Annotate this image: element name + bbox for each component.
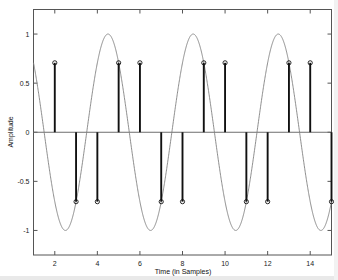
x-axis-tick-labels: 2468101214	[53, 260, 314, 267]
y-axis-tick-labels: 10.50-0.5-1	[17, 31, 29, 234]
x-tick-label: 2	[53, 260, 57, 267]
x-tick-label: 8	[181, 260, 185, 267]
x-tick-label: 10	[221, 260, 229, 267]
y-tick-label: 0	[26, 129, 30, 136]
figure-canvas: 2468101214 10.50-0.5-1 Time (in Samples)…	[0, 0, 338, 280]
y-tick-label: -0.5	[17, 178, 29, 185]
y-axis-label: Amplitude	[7, 116, 15, 147]
x-axis-label: Time (in Samples)	[155, 268, 212, 276]
x-tick-label: 4	[95, 260, 99, 267]
y-tick-label: 1	[26, 31, 30, 38]
y-tick-label: -1	[23, 227, 29, 234]
x-tick-label: 14	[306, 260, 314, 267]
y-tick-label: 0.5	[20, 80, 30, 87]
right-edge-strip	[334, 0, 338, 280]
stem-plot-chart: 2468101214 10.50-0.5-1 Time (in Samples)…	[0, 0, 338, 280]
bottom-edge-strip	[0, 276, 338, 280]
x-tick-label: 12	[264, 260, 272, 267]
x-tick-label: 6	[138, 260, 142, 267]
